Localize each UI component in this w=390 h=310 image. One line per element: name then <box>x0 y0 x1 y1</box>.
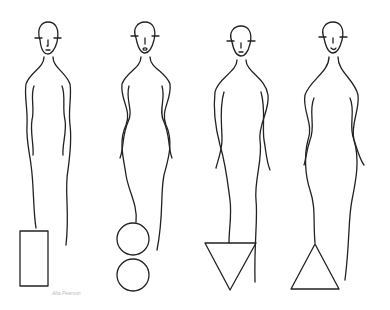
body-outline-right <box>150 57 170 250</box>
circle-symbol-upper <box>117 223 149 255</box>
circle-symbol-lower <box>117 259 149 291</box>
head <box>319 22 347 53</box>
inner-arm-right <box>62 86 65 155</box>
head <box>227 26 255 56</box>
body-outline-right <box>338 57 358 280</box>
body-outline-right <box>53 57 71 245</box>
inner-arm-right <box>261 92 270 170</box>
triangle-symbol <box>291 244 339 289</box>
inner-arm-left <box>31 86 34 155</box>
body-outline-right <box>246 60 268 282</box>
rectangle-symbol <box>20 231 48 286</box>
figure-hourglass <box>117 22 172 291</box>
body-outline-left <box>214 60 237 243</box>
figures-canvas <box>0 0 390 310</box>
figure-inverted-triangle <box>205 26 270 290</box>
head <box>131 22 159 53</box>
artist-signature: Alta Pearson <box>52 290 81 296</box>
inverted-triangle-symbol <box>205 243 256 290</box>
body-outline-left <box>305 57 329 243</box>
body-shapes-illustration: Alta Pearson <box>0 0 390 310</box>
figure-rectangle <box>20 22 71 286</box>
body-outline-left <box>25 57 44 228</box>
body-outline-left <box>122 57 141 222</box>
figure-triangle <box>291 22 364 289</box>
head <box>35 22 61 54</box>
